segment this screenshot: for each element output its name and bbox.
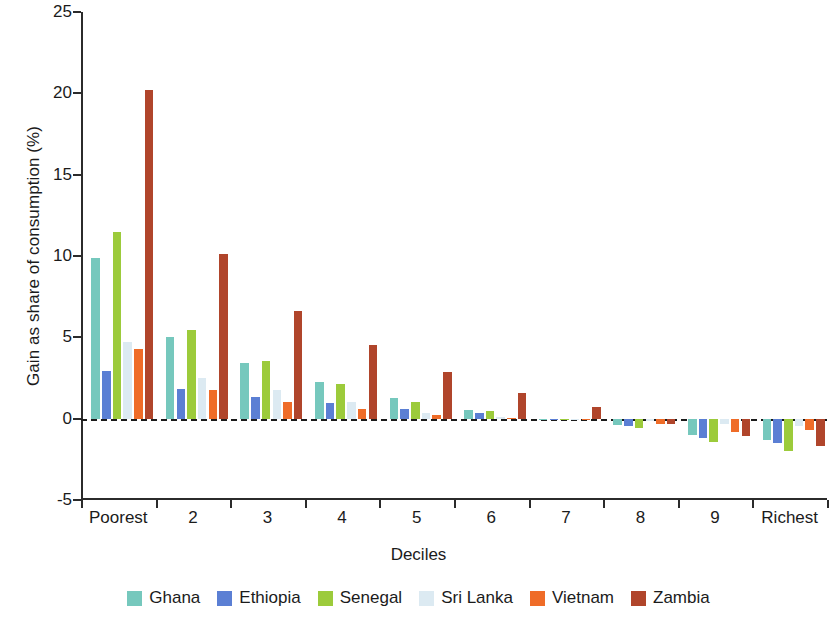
x-axis-tick-mark — [230, 500, 232, 508]
bar-ghana — [166, 337, 175, 419]
bar-vietnam — [209, 390, 218, 418]
bar-group — [156, 12, 231, 500]
x-axis-tick-label: 9 — [710, 508, 719, 528]
bar-senegal — [187, 330, 196, 419]
bar-vietnam — [731, 419, 740, 433]
bar-sri-lanka — [571, 419, 580, 420]
bar-ghana — [539, 419, 548, 420]
x-axis-tick-mark — [678, 500, 680, 508]
x-axis-tick-mark — [81, 500, 83, 508]
bar-group — [529, 12, 604, 500]
bar-ethiopia — [550, 419, 559, 421]
x-axis-tick-mark — [305, 500, 307, 508]
plot-area: -50510152025 Poorest23456789Richest — [81, 12, 827, 500]
y-axis-tick-label: 10 — [53, 246, 72, 266]
bar-group — [305, 12, 380, 500]
bar-sri-lanka — [795, 419, 804, 426]
bar-senegal — [486, 411, 495, 418]
y-axis-tick-label: -5 — [57, 490, 72, 510]
bar-sri-lanka — [347, 402, 356, 419]
legend-item-vietnam[interactable]: Vietnam — [530, 588, 614, 608]
x-axis-tick-mark — [752, 500, 754, 508]
bar-group — [379, 12, 454, 500]
bar-senegal — [709, 419, 718, 443]
bar-ghana — [240, 363, 249, 419]
bar-sri-lanka — [646, 419, 655, 421]
y-axis-tick-mark — [73, 336, 81, 338]
bar-vietnam — [432, 415, 441, 418]
y-axis-tick-mark — [73, 11, 81, 13]
bar-zambia — [443, 372, 452, 418]
bar-ethiopia — [251, 397, 260, 419]
bar-ethiopia — [699, 419, 708, 439]
bar-ghana — [315, 382, 324, 419]
legend-item-senegal[interactable]: Senegal — [318, 588, 402, 608]
bar-group — [454, 12, 529, 500]
bar-zambia — [369, 345, 378, 419]
bar-senegal — [784, 419, 793, 452]
legend-item-ghana[interactable]: Ghana — [127, 588, 200, 608]
bar-vietnam — [283, 402, 292, 419]
bar-sri-lanka — [422, 413, 431, 419]
x-axis-tick-label: 2 — [188, 508, 197, 528]
legend-label: Zambia — [653, 588, 710, 608]
bar-ethiopia — [400, 409, 409, 419]
y-axis-tick-mark — [73, 92, 81, 94]
bar-vietnam — [805, 419, 814, 430]
y-axis-tick-mark — [73, 418, 81, 420]
bar-group — [678, 12, 753, 500]
bar-zambia — [667, 419, 676, 424]
y-axis-tick-label: 15 — [53, 165, 72, 185]
bar-senegal — [336, 384, 345, 419]
bar-zambia — [518, 393, 527, 418]
x-axis-tick-label: Richest — [761, 508, 818, 528]
bar-group — [81, 12, 156, 500]
bar-vietnam — [507, 418, 516, 419]
x-axis-tick-mark — [603, 500, 605, 508]
legend-item-zambia[interactable]: Zambia — [631, 588, 710, 608]
bar-zambia — [592, 407, 601, 418]
bar-ghana — [464, 410, 473, 419]
bar-zambia — [816, 419, 825, 447]
bar-senegal — [113, 232, 122, 419]
y-axis-tick-label: 5 — [63, 327, 72, 347]
x-axis-tick-mark — [454, 500, 456, 508]
legend-swatch-icon — [127, 591, 142, 606]
y-axis-tick-mark — [73, 499, 81, 501]
y-axis-title: Gain as share of consumption (%) — [24, 56, 44, 456]
bar-group — [603, 12, 678, 500]
y-axis-tick-label: 0 — [63, 409, 72, 429]
bar-vietnam — [582, 419, 591, 420]
legend-item-ethiopia[interactable]: Ethiopia — [217, 588, 300, 608]
legend-item-sri-lanka[interactable]: Sri Lanka — [419, 588, 513, 608]
bar-sri-lanka — [123, 342, 132, 418]
bar-ethiopia — [773, 419, 782, 443]
bar-ghana — [688, 419, 697, 435]
x-axis-tick-label: Poorest — [89, 508, 148, 528]
bar-sri-lanka — [273, 390, 282, 418]
bar-vietnam — [358, 409, 367, 419]
legend-swatch-icon — [217, 591, 232, 606]
x-axis-tick-mark — [529, 500, 531, 508]
legend-label: Senegal — [340, 588, 402, 608]
legend-swatch-icon — [631, 591, 646, 606]
bar-ethiopia — [102, 371, 111, 419]
legend-swatch-icon — [318, 591, 333, 606]
x-axis-tick-label: 7 — [561, 508, 570, 528]
bar-sri-lanka — [720, 419, 729, 425]
y-axis-tick-mark — [73, 255, 81, 257]
legend-label: Ethiopia — [239, 588, 300, 608]
legend-swatch-icon — [530, 591, 545, 606]
x-axis-tick-label: 5 — [412, 508, 421, 528]
bar-ghana — [613, 419, 622, 426]
bar-ghana — [763, 419, 772, 440]
bar-sri-lanka — [496, 417, 505, 419]
bar-zambia — [742, 419, 751, 436]
x-axis-tick-label: 3 — [263, 508, 272, 528]
consumption-gain-bar-chart: Gain as share of consumption (%) -505101… — [0, 0, 837, 618]
chart-legend: GhanaEthiopiaSenegalSri LankaVietnamZamb… — [0, 588, 837, 608]
x-axis-title: Deciles — [0, 545, 837, 565]
bar-ethiopia — [475, 413, 484, 419]
x-axis-tick-mark — [156, 500, 158, 508]
bar-ghana — [390, 398, 399, 418]
